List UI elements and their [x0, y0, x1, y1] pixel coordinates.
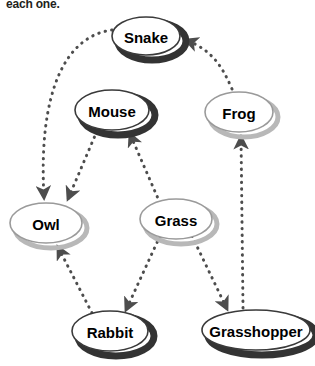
- node-rabbit[interactable]: Rabbit: [72, 311, 154, 356]
- node-label: Owl: [32, 216, 60, 233]
- node-label: Grasshopper: [209, 323, 303, 340]
- node-mouse[interactable]: Mouse: [75, 90, 155, 135]
- node-frog[interactable]: Frog: [205, 92, 278, 137]
- node-layer: SnakeMouseFrogOwlGrassRabbitGrasshopper: [10, 17, 315, 356]
- node-label: Frog: [222, 105, 255, 122]
- edge-frog-snake: [186, 40, 232, 89]
- node-label: Mouse: [88, 103, 136, 120]
- edge-layer: [43, 30, 243, 313]
- edge-mouse-owl: [68, 131, 97, 199]
- food-web-diagram: SnakeMouseFrogOwlGrassRabbitGrasshopper: [0, 0, 315, 366]
- node-label: Grass: [155, 212, 198, 229]
- edge-grass-rabbit: [126, 236, 160, 310]
- edge-rabbit-owl: [58, 247, 92, 313]
- node-label: Rabbit: [87, 324, 134, 341]
- edge-grass-grasshopper: [192, 236, 227, 309]
- node-grasshopper[interactable]: Grasshopper: [202, 310, 315, 355]
- node-label: Snake: [124, 29, 168, 46]
- diagram-canvas: each one. SnakeMouseFrogOwlGrassRabbitGr…: [0, 0, 315, 366]
- edge-grass-mouse: [130, 134, 160, 203]
- node-grass[interactable]: Grass: [140, 199, 217, 244]
- node-snake[interactable]: Snake: [112, 17, 186, 60]
- edge-grasshopper-frog: [241, 137, 243, 308]
- node-owl[interactable]: Owl: [10, 203, 87, 248]
